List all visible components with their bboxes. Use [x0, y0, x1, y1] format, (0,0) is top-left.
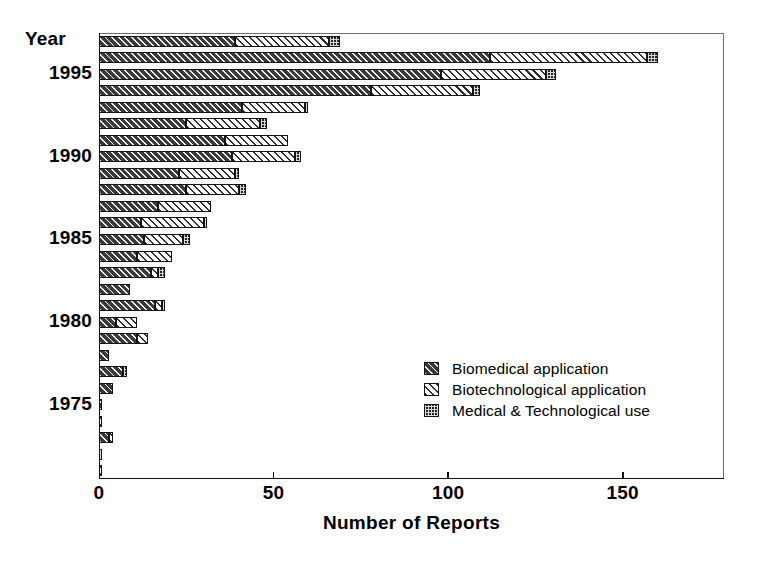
legend-item: Biomedical application [424, 358, 650, 379]
legend-item-label: Medical & Technological use [452, 400, 650, 421]
x-axis-tick-mark [622, 472, 624, 479]
x-axis-tick-label: 50 [263, 482, 285, 504]
legend-item: Biotechnological application [424, 379, 650, 400]
legend-swatch-medtech-icon [424, 404, 439, 417]
chart-canvas: Year 19951990198519801975 050100150 Numb… [0, 0, 757, 581]
legend-swatch-biotech-icon [424, 383, 439, 396]
x-axis-tick-label: 0 [94, 482, 105, 504]
x-axis-ticks: 050100150 [0, 0, 757, 581]
x-axis-tick-label: 150 [607, 482, 639, 504]
x-axis-tick-mark [273, 472, 275, 479]
legend-item-label: Biomedical application [452, 358, 608, 379]
x-axis-title: Number of Reports [99, 512, 724, 534]
x-axis-tick-label: 100 [432, 482, 464, 504]
x-axis-tick-mark [447, 472, 449, 479]
legend-swatch-biomedical-icon [424, 362, 439, 375]
chart-legend: Biomedical applicationBiotechnological a… [424, 358, 650, 421]
legend-item: Medical & Technological use [424, 400, 650, 421]
legend-item-label: Biotechnological application [452, 379, 646, 400]
